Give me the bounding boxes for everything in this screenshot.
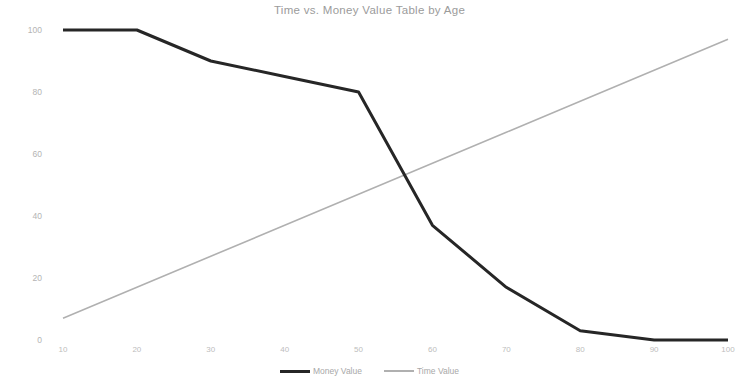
legend-label: Money Value — [313, 366, 362, 376]
chart-legend: Money ValueTime Value — [0, 364, 739, 378]
legend-swatch-icon — [384, 370, 414, 372]
legend-item-money-value[interactable]: Money Value — [280, 366, 362, 376]
series-line-money-value — [63, 30, 728, 340]
series-line-time-value — [63, 39, 728, 318]
legend-label: Time Value — [417, 366, 459, 376]
legend-item-time-value[interactable]: Time Value — [384, 366, 459, 376]
chart-container: Time vs. Money Value Table by Age 020406… — [0, 0, 739, 378]
plot-area — [0, 0, 739, 378]
legend-swatch-icon — [280, 370, 310, 373]
